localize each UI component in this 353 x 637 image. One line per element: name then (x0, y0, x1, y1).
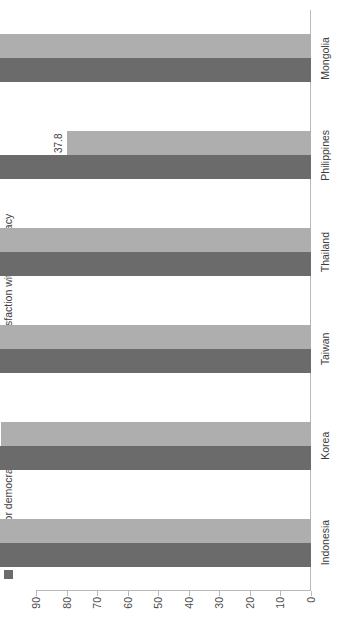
value-tick-60: 60 (122, 597, 134, 627)
bar-group: 52.0637.8Philippines (36, 107, 311, 204)
category-label-korea: Korea (319, 397, 331, 494)
bar-pair: 65.4463.4 (36, 10, 311, 107)
value-tick-label: 20 (244, 597, 256, 609)
bar-support[interactable]: 70.76 (0, 252, 311, 276)
bar-value-label: 37.8 (53, 134, 64, 153)
bar-pair: 55.2455.9 (36, 301, 311, 398)
value-tick-label: 80 (61, 597, 73, 609)
bar-group: 60.748.1Korea (36, 397, 311, 494)
tick-mark (311, 591, 312, 596)
bar-satisfaction[interactable]: 79.7 (0, 228, 311, 252)
value-tick-label: 0 (305, 597, 317, 603)
bar-pair: 52.0637.8 (36, 107, 311, 204)
value-tick-label: 40 (183, 597, 195, 609)
bar-chart-figure: Support for democracy Satisfaction with … (0, 0, 353, 637)
tick-mark (280, 591, 281, 596)
value-tick-label: 60 (122, 597, 134, 609)
bar-group: 65.4458.9Indonesia (36, 494, 311, 591)
category-label-thailand: Thailand (319, 204, 331, 301)
value-tick-20: 20 (244, 597, 256, 627)
chart-legend: Support for democracy Satisfaction with … (0, 11, 26, 591)
bar-support[interactable]: 55.24 (0, 349, 311, 373)
bar-group: 55.2455.9Taiwan (36, 301, 311, 398)
value-tick-0: 0 (305, 597, 317, 627)
category-label-philippines: Philippines (319, 107, 331, 204)
category-label-mongolia: Mongolia (319, 10, 331, 107)
value-tick-50: 50 (152, 597, 164, 627)
bar-pair: 60.748.1 (36, 397, 311, 494)
value-tick-70: 70 (91, 597, 103, 627)
bar-satisfaction[interactable]: 37.8 (67, 131, 311, 155)
bar-pair: 65.4458.9 (36, 494, 311, 591)
bar-groups: 65.4458.9Indonesia60.748.1Korea55.2455.9… (36, 10, 311, 591)
value-tick-label: 70 (91, 597, 103, 609)
value-tick-90: 90 (30, 597, 42, 627)
tick-mark (36, 591, 37, 596)
bar-pair: 70.7679.7 (36, 204, 311, 301)
tick-mark (189, 591, 190, 596)
tick-mark (128, 591, 129, 596)
bar-satisfaction[interactable]: 58.9 (0, 519, 311, 543)
bar-support[interactable]: 65.44 (0, 543, 311, 567)
bar-satisfaction[interactable]: 63.4 (0, 34, 311, 58)
tick-mark (97, 591, 98, 596)
bar-support[interactable]: 60.7 (0, 446, 311, 470)
category-label-taiwan: Taiwan (319, 301, 331, 398)
value-tick-10: 10 (274, 597, 286, 627)
tick-mark (219, 591, 220, 596)
value-tick-30: 30 (213, 597, 225, 627)
tick-mark (158, 591, 159, 596)
tick-mark (67, 591, 68, 596)
tick-mark (250, 591, 251, 596)
value-tick-80: 80 (61, 597, 73, 627)
legend-swatch-support-icon (4, 570, 13, 579)
value-tick-label: 10 (274, 597, 286, 609)
bar-satisfaction[interactable]: 55.9 (0, 325, 311, 349)
plot-area: 0102030405060708090 65.4458.9Indonesia60… (36, 10, 311, 591)
value-tick-40: 40 (183, 597, 195, 627)
bar-satisfaction[interactable]: 48.1 (1, 422, 312, 446)
value-tick-label: 30 (213, 597, 225, 609)
bar-support[interactable]: 52.06 (0, 155, 311, 179)
value-tick-label: 50 (152, 597, 164, 609)
category-label-indonesia: Indonesia (319, 494, 331, 591)
bar-group: 70.7679.7Thailand (36, 204, 311, 301)
value-tick-label: 90 (30, 597, 42, 609)
bar-support[interactable]: 65.44 (0, 58, 311, 82)
bar-group: 65.4463.4Mongolia (36, 10, 311, 107)
chart-rotation-wrapper: Support for democracy Satisfaction with … (0, 0, 353, 637)
